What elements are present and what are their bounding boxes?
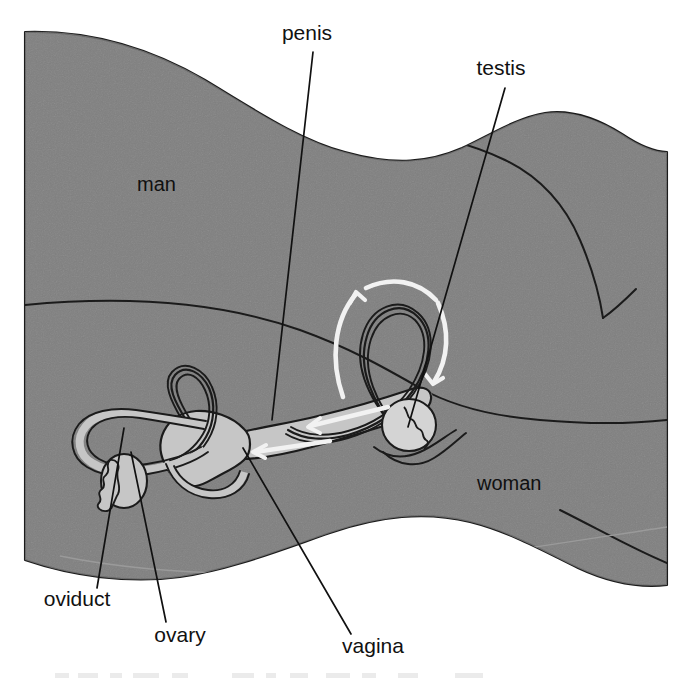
label-vagina: vagina [342, 634, 404, 657]
anatomy-diagram-canvas: penis testis oviduct ovary vagina man wo… [0, 0, 692, 682]
faint-bottom-caption [55, 673, 483, 678]
label-testis: testis [476, 56, 525, 79]
label-woman: woman [476, 472, 541, 494]
label-ovary: ovary [154, 623, 206, 646]
label-penis: penis [282, 21, 332, 44]
label-man: man [137, 173, 176, 195]
anatomy-figure: penis testis oviduct ovary vagina man wo… [0, 0, 692, 682]
label-oviduct: oviduct [44, 587, 111, 610]
